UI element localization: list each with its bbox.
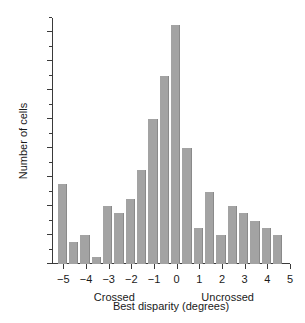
y-minor-tick-mark — [49, 162, 52, 163]
x-tick-mark — [131, 264, 132, 269]
x-tick-mark — [154, 264, 155, 269]
y-minor-tick-mark — [49, 17, 52, 18]
y-tick-mark — [47, 60, 52, 61]
plot-area: 048121620242832 −5−4−3−2−1012345 Crossed… — [52, 18, 290, 264]
y-axis-title: Number of cells — [17, 56, 29, 226]
histogram-bar — [58, 184, 67, 264]
x-tick-mark — [177, 264, 178, 269]
y-minor-tick-mark — [49, 249, 52, 250]
x-tick-mark — [245, 264, 246, 269]
histogram-bar — [160, 76, 169, 264]
histogram-bar — [114, 213, 123, 264]
histogram-bar — [171, 25, 180, 264]
x-tick-mark — [199, 264, 200, 269]
histogram-bar — [69, 242, 78, 264]
y-minor-tick-mark — [49, 191, 52, 192]
histogram-bar — [194, 228, 203, 264]
y-tick-mark — [47, 176, 52, 177]
y-tick-mark — [47, 118, 52, 119]
x-axis-title: Best disparity (degrees) — [52, 300, 290, 312]
histogram-bar — [126, 199, 135, 264]
histogram-bar — [216, 235, 225, 264]
y-tick-mark — [47, 147, 52, 148]
histogram-bar — [205, 192, 214, 264]
histogram-bar — [182, 148, 191, 264]
histogram-bar — [80, 235, 89, 264]
histogram-bar — [262, 228, 271, 264]
x-tick-mark — [109, 264, 110, 269]
y-minor-tick-mark — [49, 133, 52, 134]
histogram-bar — [103, 206, 112, 264]
histogram-bar — [239, 213, 248, 264]
x-tick-mark — [290, 264, 291, 269]
y-tick-mark — [47, 31, 52, 32]
x-tick-mark — [63, 264, 64, 269]
histogram-figure: Number of cells 048121620242832 −5−4−3−2… — [0, 0, 305, 323]
y-tick-mark — [47, 263, 52, 264]
y-minor-tick-mark — [49, 220, 52, 221]
x-tick-label: 5 — [275, 274, 305, 285]
y-tick-mark — [47, 89, 52, 90]
histogram-bar — [92, 257, 101, 264]
y-minor-tick-mark — [49, 46, 52, 47]
x-tick-mark — [267, 264, 268, 269]
histogram-bar — [228, 206, 237, 264]
histogram-bar — [250, 221, 259, 264]
y-minor-tick-mark — [49, 104, 52, 105]
histogram-bar — [137, 170, 146, 264]
histogram-bar — [273, 235, 282, 264]
y-minor-tick-mark — [49, 75, 52, 76]
y-tick-mark — [47, 205, 52, 206]
histogram-bar — [148, 119, 157, 264]
y-axis-line — [52, 18, 53, 264]
x-tick-mark — [222, 264, 223, 269]
y-tick-mark — [47, 234, 52, 235]
x-tick-mark — [86, 264, 87, 269]
